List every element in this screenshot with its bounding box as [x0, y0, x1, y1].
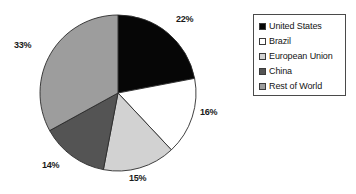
legend-item[interactable]: Brazil [259, 34, 340, 48]
legend-item[interactable]: China [259, 64, 340, 78]
legend-label-china: China [269, 66, 292, 76]
pie-label-china: 14% [42, 160, 59, 170]
legend-swatch-united-states [259, 23, 266, 30]
pie-label-brazil: 16% [200, 107, 217, 117]
pie-slice-group [40, 15, 196, 171]
legend-item[interactable]: Rest of World [259, 79, 340, 93]
legend-swatch-brazil [259, 38, 266, 45]
legend-label-brazil: Brazil [269, 36, 291, 46]
legend-swatch-china [259, 68, 266, 75]
legend-label-european-union: European Union [269, 51, 333, 61]
pie-chart-figure: 22% 16% 15% 14% 33% United States Brazil… [0, 0, 356, 194]
legend-label-rest-of-world: Rest of World [269, 81, 322, 91]
chart-legend: United States Brazil European Union Chin… [253, 14, 346, 96]
legend-item[interactable]: European Union [259, 49, 340, 63]
pie-label-rest-of-world: 33% [14, 40, 31, 50]
legend-swatch-european-union [259, 53, 266, 60]
legend-label-united-states: United States [269, 21, 322, 31]
legend-item[interactable]: United States [259, 19, 340, 33]
legend-swatch-rest-of-world [259, 83, 266, 90]
pie-label-united-states: 22% [176, 14, 193, 24]
pie-label-european-union: 15% [129, 173, 146, 183]
